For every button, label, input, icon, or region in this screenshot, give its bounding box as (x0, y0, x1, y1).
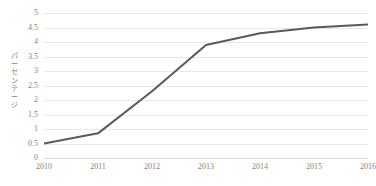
y-axis-tick-label: 3.5 (28, 53, 38, 61)
plot-area (44, 13, 368, 158)
y-axis-tick-label: 3 (34, 67, 38, 75)
series-line (44, 25, 368, 144)
y-axis-tick-label: 0.5 (28, 140, 38, 148)
y-axis-tick-label: 2.5 (28, 82, 38, 90)
x-axis-tick-labels: 2010201120122013201420152016 (44, 160, 368, 184)
y-axis-tick-label: 1 (34, 125, 38, 133)
x-axis-tick-label: 2011 (90, 162, 106, 172)
y-axis-tick-label: 2 (34, 96, 38, 104)
axis-line-zero (44, 158, 368, 159)
x-axis-tick-label: 2012 (144, 162, 160, 172)
x-axis-tick-label: 2016 (360, 162, 376, 172)
series-line-layer (44, 13, 368, 158)
y-axis-tick-label: 5 (34, 9, 38, 17)
y-axis-tick-label: 1.5 (28, 111, 38, 119)
y-axis-tick-label: 4 (34, 38, 38, 46)
x-axis-tick-label: 2015 (306, 162, 322, 172)
x-axis-tick-label: 2014 (252, 162, 268, 172)
y-axis-tick-labels: 00.511.522.533.544.55 (0, 0, 42, 186)
x-axis-tick-label: 2013 (198, 162, 214, 172)
y-axis-tick-label: 0 (34, 154, 38, 162)
x-axis-tick-label: 2010 (36, 162, 52, 172)
y-axis-tick-label: 4.5 (28, 24, 38, 32)
